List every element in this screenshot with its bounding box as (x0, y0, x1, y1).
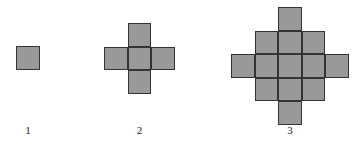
unit-square (151, 47, 175, 71)
figure-stage: 1 2 3 (0, 0, 358, 144)
unit-square (128, 47, 152, 71)
unit-square (278, 78, 302, 102)
square-grid-3 (231, 7, 349, 125)
unit-square (104, 47, 128, 71)
figure-label-2: 2 (104, 124, 175, 136)
unit-square (16, 46, 40, 70)
unit-square (231, 54, 255, 78)
unit-square (302, 54, 326, 78)
figure-group-2 (104, 23, 175, 94)
unit-square (128, 23, 152, 47)
unit-square (278, 31, 302, 55)
unit-square (255, 78, 279, 102)
unit-square (278, 101, 302, 125)
unit-square (302, 78, 326, 102)
figure-label-3: 3 (231, 124, 349, 136)
square-grid-2 (104, 23, 175, 94)
unit-square (128, 70, 152, 94)
unit-square (255, 31, 279, 55)
unit-square (325, 54, 349, 78)
figure-group-3 (231, 7, 349, 125)
unit-square (278, 54, 302, 78)
unit-square (302, 31, 326, 55)
square-grid-1 (16, 46, 40, 70)
figure-label-1: 1 (16, 124, 40, 136)
unit-square (278, 7, 302, 31)
figure-group-1 (16, 46, 40, 70)
unit-square (255, 54, 279, 78)
